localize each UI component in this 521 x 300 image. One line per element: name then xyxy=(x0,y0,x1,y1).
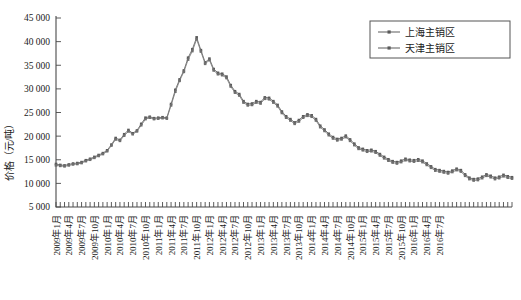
data-point-marker xyxy=(327,134,330,137)
x-axis-tick-label: 2016年4月 xyxy=(421,215,432,256)
x-axis-tick-label: 2014年7月 xyxy=(332,215,343,256)
chart-legend: 上海主销区天津主销区 xyxy=(370,21,510,58)
y-axis-title: 价格（元/吨） xyxy=(3,119,15,182)
data-point-marker xyxy=(238,94,241,97)
data-point-marker xyxy=(183,71,186,74)
data-point-marker xyxy=(259,102,262,105)
data-point-marker xyxy=(447,172,450,175)
y-axis-title-text: 价格（元/吨） xyxy=(3,119,15,182)
data-point-marker xyxy=(391,161,394,164)
data-point-marker xyxy=(357,148,360,151)
data-point-marker xyxy=(119,140,122,143)
x-axis-tick-label: 2010年7月 xyxy=(127,215,138,256)
x-axis-tick-label: 2009年7月 xyxy=(76,215,87,256)
x-axis-tick-label: 2013年4月 xyxy=(268,215,279,256)
y-axis-tick-label: 45 000 xyxy=(24,13,50,23)
data-point-marker xyxy=(276,105,279,108)
data-point-marker xyxy=(114,138,117,141)
data-point-marker xyxy=(340,138,343,141)
data-point-marker xyxy=(408,160,411,163)
x-axis-tick-label: 2016年7月 xyxy=(434,215,445,256)
x-axis-tick-label: 2012年10月 xyxy=(242,215,253,260)
data-point-marker xyxy=(76,163,79,166)
data-point-marker xyxy=(451,171,454,174)
data-point-marker xyxy=(208,59,211,62)
data-point-marker xyxy=(421,161,424,164)
data-point-marker xyxy=(268,98,271,101)
data-point-marker xyxy=(153,118,156,121)
data-point-marker xyxy=(170,104,173,107)
data-point-marker xyxy=(285,116,288,119)
data-point-marker xyxy=(315,119,318,122)
series-line-1 xyxy=(56,37,512,179)
data-point-marker xyxy=(161,117,164,120)
data-point-marker xyxy=(289,119,292,122)
y-axis-tick-label: 10 000 xyxy=(24,179,50,189)
data-point-marker xyxy=(511,177,514,180)
data-point-marker xyxy=(140,124,143,127)
legend-label-2: 天津主销区 xyxy=(405,42,455,54)
data-point-marker xyxy=(293,123,296,126)
data-point-marker xyxy=(255,101,258,104)
data-point-marker xyxy=(178,80,181,83)
data-point-marker xyxy=(434,169,437,172)
data-point-marker xyxy=(485,175,488,178)
x-axis-tick-label: 2012年7月 xyxy=(229,215,240,256)
x-axis-tick-label: 2014年1月 xyxy=(306,215,317,256)
data-point-marker xyxy=(191,50,194,53)
data-point-marker xyxy=(366,150,369,153)
data-point-marker xyxy=(468,178,471,181)
data-point-marker xyxy=(319,126,322,129)
data-point-marker xyxy=(417,159,420,162)
data-point-marker xyxy=(438,170,441,173)
data-point-marker xyxy=(242,101,245,104)
data-point-marker xyxy=(379,154,382,157)
data-point-marker xyxy=(404,159,407,162)
x-axis-tick-label: 2010年10月 xyxy=(140,215,151,260)
data-point-marker xyxy=(460,170,463,173)
y-axis-tick-label: 30 000 xyxy=(24,84,50,94)
x-axis-tick-group xyxy=(56,202,512,207)
data-point-marker xyxy=(157,117,160,120)
x-axis-tick-label: 2014年10月 xyxy=(345,215,356,260)
data-point-marker xyxy=(281,112,284,115)
x-axis-tick-label: 2011年1月 xyxy=(153,215,164,255)
data-point-marker xyxy=(85,160,88,163)
data-point-marker xyxy=(344,136,347,139)
data-point-marker xyxy=(455,169,458,172)
data-point-marker xyxy=(80,162,83,165)
data-point-marker xyxy=(93,157,96,160)
x-axis-tick-label: 2015年7月 xyxy=(383,215,394,256)
data-point-marker xyxy=(374,151,377,154)
data-point-marker xyxy=(302,116,305,119)
data-point-marker xyxy=(55,164,58,167)
x-axis-tick-label: 2012年4月 xyxy=(217,215,228,256)
data-point-marker xyxy=(383,157,386,160)
x-axis-tick-label: 2010年1月 xyxy=(102,215,113,256)
data-point-marker xyxy=(221,74,224,77)
data-point-marker xyxy=(187,58,190,61)
data-point-marker xyxy=(63,165,66,168)
x-axis-tick-label: 2011年7月 xyxy=(178,215,189,255)
x-axis-tick-label: 2015年1月 xyxy=(357,215,368,256)
data-point-marker xyxy=(127,130,130,133)
x-axis-tick-label: 2013年1月 xyxy=(255,215,266,256)
y-axis-tick-group xyxy=(56,18,61,207)
chart-canvas: 5 00010 00015 00020 00025 00030 00035 00… xyxy=(0,0,521,300)
data-point-marker xyxy=(246,104,249,107)
x-axis-tick-label: 2009年1月 xyxy=(51,215,62,256)
data-point-marker xyxy=(349,140,352,143)
price-trend-chart: 5 00010 00015 00020 00025 00030 00035 00… xyxy=(0,0,521,300)
y-axis-tick-label: 25 000 xyxy=(24,108,50,118)
data-point-marker xyxy=(106,150,109,153)
x-axis-label-group: 2009年1月2009年4月2009年7月2009年10月2010年1月2010… xyxy=(51,215,446,260)
data-point-marker xyxy=(370,150,373,153)
data-point-marker xyxy=(425,164,428,167)
data-point-marker xyxy=(323,130,326,133)
data-point-marker xyxy=(310,115,313,118)
data-point-marker xyxy=(272,101,275,104)
data-point-marker xyxy=(494,178,497,181)
y-axis-label-group: 5 00010 00015 00020 00025 00030 00035 00… xyxy=(24,13,50,212)
x-axis-tick-label: 2012年1月 xyxy=(204,215,215,256)
y-axis-tick-label: 40 000 xyxy=(24,37,50,47)
